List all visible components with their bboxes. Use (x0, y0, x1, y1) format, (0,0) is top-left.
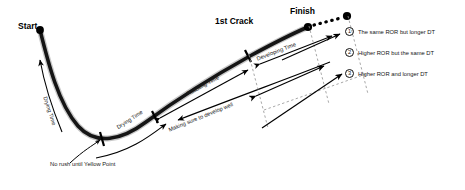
roast-curve-halo (40, 27, 308, 138)
roasting-time-arrow (160, 70, 248, 118)
annotation-3-arrow (262, 74, 342, 128)
finish-point-dot (304, 23, 312, 31)
dashed-guide-finish (309, 26, 329, 104)
roast-profile-diagram: Start 1st Crack Finish Drying Time Dryin… (0, 0, 465, 190)
annotation-number-2: 2 (345, 48, 354, 57)
yellow-point-note: No rush until Yellow Point (50, 162, 115, 168)
making-sure-arrow (178, 62, 330, 120)
annotation-text-3: Higher ROR and longer DT (358, 71, 428, 77)
annotation-item-3: 3 Higher ROR and longer DT (345, 69, 428, 78)
annotation-text-1: The same ROR but longer DT (358, 29, 435, 35)
annotation-number-3: 3 (345, 69, 354, 78)
extended-finish-dot (343, 12, 351, 20)
finish-extension-dots (314, 18, 341, 25)
first-crack-label: 1st Crack (215, 17, 253, 26)
start-label: Start (18, 22, 37, 31)
annotation-2-arrow (256, 66, 324, 96)
annotation-text-2: Higher ROR but the same DT (358, 50, 434, 56)
annotation-item-2: 2 Higher ROR but the same DT (345, 48, 434, 57)
annotation-item-1: 1 The same ROR but longer DT (345, 27, 435, 36)
annotation-number-1: 1 (345, 27, 354, 36)
yellow-point-callout-arrow (70, 140, 100, 163)
finish-label: Finish (290, 7, 315, 16)
